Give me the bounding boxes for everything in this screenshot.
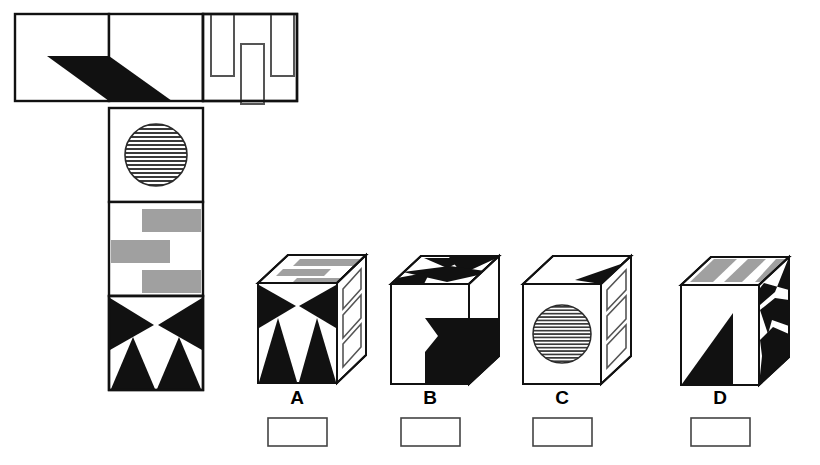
- net-face-bars: [109, 202, 203, 296]
- option-d-answer-box[interactable]: [691, 418, 750, 446]
- option-c-front-pattern: [533, 305, 591, 363]
- net-pattern-hatched-circle: [125, 124, 187, 186]
- option-c-label: C: [555, 387, 569, 408]
- net-face-top-right: [203, 14, 297, 101]
- option-b-label: B: [423, 387, 437, 408]
- net-face-circle: [109, 108, 203, 202]
- net-face-triangles: [109, 296, 203, 390]
- option-a-label: A: [290, 387, 304, 408]
- option-c-answer-box[interactable]: [533, 418, 592, 446]
- option-a-answer-box[interactable]: [268, 418, 327, 446]
- option-d-label: D: [713, 387, 727, 408]
- option-b-answer-box[interactable]: [401, 418, 460, 446]
- puzzle-canvas: A B: [0, 0, 820, 465]
- puzzle-stage: A B: [0, 0, 820, 465]
